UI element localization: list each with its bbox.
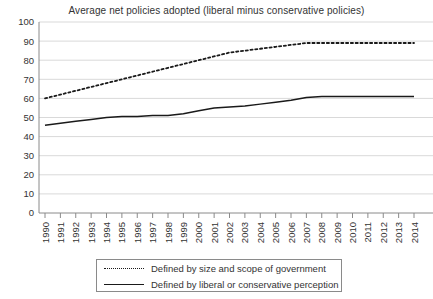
x-tick-label: 2014: [409, 222, 420, 243]
data-series: [45, 43, 414, 125]
x-tick-label: 2011: [362, 222, 373, 242]
x-tick-label: 2003: [239, 222, 250, 243]
legend-item-solid: Defined by liberal or conservative perce…: [97, 277, 341, 292]
x-tick-label: 2012: [378, 222, 389, 243]
x-tick-label: 2010: [347, 222, 358, 243]
x-tick-label: 2004: [255, 222, 266, 243]
gridlines: [39, 22, 433, 213]
x-tick-label: 2007: [301, 222, 312, 243]
legend-item-dotted: Defined by size and scope of government: [97, 261, 341, 276]
x-tick-label: 1990: [40, 222, 51, 243]
y-tick-label: 50: [23, 112, 34, 123]
y-tick-label: 20: [23, 169, 34, 180]
x-tick-label: 1994: [101, 222, 112, 243]
y-tick-label: 40: [23, 131, 34, 142]
x-tick-label: 1991: [55, 222, 66, 243]
x-tick-label: 1995: [116, 222, 127, 243]
x-tick-label: 2005: [270, 222, 281, 243]
chart-container: Average net policies adopted (liberal mi…: [0, 0, 433, 299]
legend-swatch-dotted-icon: [102, 264, 146, 274]
x-tick-label: 2008: [316, 222, 327, 243]
y-tick-label: 90: [23, 36, 34, 47]
y-tick-label: 0: [29, 207, 34, 218]
y-tick-label: 30: [23, 150, 34, 161]
x-tick-label: 1996: [132, 222, 143, 243]
legend-label-dotted: Defined by size and scope of government: [151, 263, 326, 274]
x-tick-label: 2013: [393, 222, 404, 243]
x-tick-label: 1992: [70, 222, 81, 243]
y-tick-label: 60: [23, 93, 34, 104]
legend-label-solid: Defined by liberal or conservative perce…: [151, 279, 338, 290]
x-tick-label: 2006: [286, 222, 297, 243]
y-tick-label: 10: [23, 188, 34, 199]
x-tick-label: 1993: [86, 222, 97, 243]
x-tick-label: 2001: [209, 222, 220, 243]
series-line-dotted: [45, 43, 414, 98]
x-tick-label: 1998: [163, 222, 174, 243]
legend-swatch-solid-icon: [102, 280, 146, 290]
series-line-solid: [45, 96, 414, 125]
x-tick-label: 1999: [178, 222, 189, 243]
x-tick-label: 1997: [147, 222, 158, 243]
x-axis: 1990199119921993199419951996199719981999…: [40, 213, 420, 243]
legend: Defined by size and scope of government …: [96, 259, 342, 292]
y-tick-label: 70: [23, 74, 34, 85]
y-tick-label: 100: [18, 16, 34, 27]
plot-area: 0102030405060708090100 19901991199219931…: [0, 0, 433, 299]
y-tick-label: 80: [23, 55, 34, 66]
x-tick-label: 2002: [224, 222, 235, 243]
x-tick-label: 2009: [332, 222, 343, 243]
y-axis: 0102030405060708090100: [18, 16, 39, 218]
x-tick-label: 2000: [193, 222, 204, 243]
